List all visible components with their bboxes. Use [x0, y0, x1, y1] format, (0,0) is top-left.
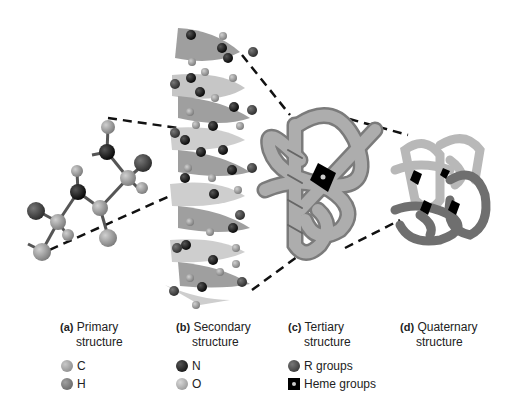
primary-structure-model	[27, 120, 152, 261]
legend-r-groups: R groups	[288, 358, 353, 374]
nitrogen-atom-icon	[176, 360, 188, 372]
caption-quaternary: (d) Quaternary structure	[400, 320, 477, 350]
r-group-icon	[288, 360, 300, 372]
tertiary-structure-model	[265, 115, 375, 252]
legend-heme-groups: Heme groups	[288, 376, 376, 392]
hydrogen-atom-icon	[61, 378, 73, 390]
legend-oxygen: O	[176, 376, 201, 392]
caption-tertiary: (c) Tertiary structure	[288, 320, 351, 350]
legend-nitrogen: N	[176, 358, 201, 374]
protein-structure-figure: (a) Primary structure (b) Secondary stru…	[0, 0, 513, 415]
carbon-atom-icon	[61, 360, 73, 372]
caption-primary: (a) Primary structure	[60, 320, 123, 350]
legend-carbon: C	[61, 358, 86, 374]
caption-secondary: (b) Secondary structure	[176, 320, 251, 350]
oxygen-atom-icon	[176, 378, 188, 390]
secondary-structure-helix	[165, 28, 258, 309]
legend-hydrogen: H	[61, 376, 86, 392]
quaternary-structure-model	[395, 139, 486, 241]
figure-illustration	[0, 0, 513, 415]
heme-group-icon	[288, 378, 300, 390]
